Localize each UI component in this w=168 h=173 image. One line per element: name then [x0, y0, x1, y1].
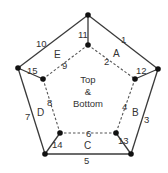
face-label-e: E — [54, 49, 61, 60]
center-label-line-1: Top — [80, 74, 95, 85]
edge-label-5: 5 — [84, 155, 89, 166]
edge-label-7: 7 — [25, 111, 30, 122]
pentagon-diagram: 1 3 5 7 10 2 4 6 8 9 11 12 13 14 15 A B … — [0, 0, 168, 173]
edge-label-9: 9 — [62, 60, 67, 71]
vertex-inner-right — [132, 76, 138, 82]
edge-label-2: 2 — [104, 56, 109, 67]
vertex-outer-bottom-left — [42, 151, 48, 157]
edge-label-12: 12 — [136, 65, 147, 76]
edge-label-10: 10 — [36, 38, 47, 49]
vertex-outer-left — [15, 65, 21, 71]
face-label-c: C — [84, 140, 91, 151]
face-label-d: D — [37, 107, 44, 118]
vertex-outer-right — [155, 66, 161, 72]
edge-label-8: 8 — [47, 97, 52, 108]
edge-label-3: 3 — [144, 114, 149, 125]
edge-label-11: 11 — [78, 29, 88, 40]
face-label-a: A — [113, 48, 120, 59]
center-label-line-3: Bottom — [73, 98, 103, 109]
edge-label-13: 13 — [118, 135, 129, 146]
vertex-inner-left — [40, 76, 46, 82]
edge-label-6: 6 — [86, 128, 91, 139]
edge-10 — [18, 15, 88, 68]
edge-label-14: 14 — [52, 139, 63, 150]
vertex-inner-bottom-left — [57, 130, 63, 136]
face-label-b: B — [132, 107, 139, 118]
vertex-outer-bottom-right — [128, 151, 134, 157]
center-label-line-2: & — [85, 86, 92, 97]
edge-label-4: 4 — [122, 101, 127, 112]
edge-label-1: 1 — [121, 34, 126, 45]
vertex-inner-top — [85, 42, 91, 48]
vertex-outer-top — [85, 12, 91, 18]
edge-label-15: 15 — [27, 65, 38, 76]
